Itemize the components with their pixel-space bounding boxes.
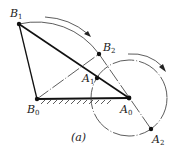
label-B2: B2: [102, 41, 116, 55]
ground-link: [37, 98, 129, 99]
label-B1: B1: [9, 7, 23, 21]
figure-caption: (a): [71, 131, 86, 144]
ground-hatching: [41, 100, 111, 104]
label-B0: B0: [26, 103, 40, 117]
arrowhead-icon: [159, 64, 166, 72]
label-A2: A2: [151, 133, 164, 147]
arc-B1-B2: [19, 22, 99, 54]
rotation-arrow-arc: [45, 17, 88, 34]
four-bar-linkage-diagram: B1 B2 A1 B0 A0 A2 (a): [0, 0, 181, 156]
link-B1-A0: [19, 24, 129, 98]
dash-link-B2-A2: [99, 54, 151, 129]
label-A0: A0: [119, 103, 132, 117]
